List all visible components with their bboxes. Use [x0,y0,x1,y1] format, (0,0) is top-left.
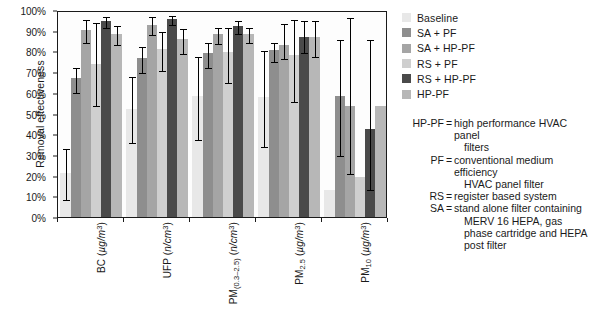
abbreviation-definition-continuation: filters [454,141,589,153]
error-bar [350,18,351,174]
error-bar-cap [347,174,354,175]
error-bar-cap [195,140,202,141]
abbreviation-definition: conventional medium efficiencyHVAC panel… [454,154,589,191]
error-bar-cap [159,71,166,72]
bar [269,50,279,217]
x-axis-tick-mark [189,218,190,222]
error-bar-cap [225,28,232,29]
y-axis-tick-label: 0% [32,213,46,224]
error-bar-cap [139,47,146,48]
error-bar [274,43,275,62]
error-bar-cap [114,26,121,27]
error-bar-cap [271,43,278,44]
legend-item-label: SA + PF [417,27,457,39]
x-axis-tick-mark [255,218,256,222]
y-axis-tick-label: 30% [26,150,46,161]
y-axis-tick-label: 10% [26,192,46,203]
error-bar-cap [180,29,187,30]
bar [299,37,309,217]
abbreviation-note: RS=register based system [396,190,589,202]
legend-item[interactable]: SA + PF [402,25,587,40]
error-bar [117,26,118,45]
legend-item[interactable]: HP-PF [402,86,587,101]
error-bar [96,23,97,106]
error-bar-cap [337,156,344,157]
legend-swatch-icon [402,44,411,53]
error-bar-cap [195,57,202,58]
abbreviation-definition-line1: register based system [454,190,557,202]
legend-item-label: SA + HP-PF [417,42,475,54]
error-bar-cap [73,68,80,69]
error-bar-cap [149,35,156,36]
y-axis-tick-label: 20% [26,171,46,182]
error-bar [264,51,265,146]
error-bar [198,57,199,141]
error-bar-cap [281,24,288,25]
bar [309,37,319,217]
error-bar-cap [246,28,253,29]
legend-item[interactable]: Baseline [402,10,587,25]
error-bar-cap [129,143,136,144]
error-bar-cap [301,53,308,54]
error-bar-cap [235,34,242,35]
abbreviation-equals: = [444,154,454,191]
bar [375,106,385,217]
error-bar-cap [215,28,222,29]
abbreviation-definition-line1: high performance HVAC panel [454,117,567,141]
abbreviation-definition: register based system [454,190,589,202]
y-axis-tick-label: 70% [26,68,46,79]
error-bar-cap [63,149,70,150]
legend-swatch-icon [402,90,411,99]
abbreviation-equals: = [444,117,454,154]
error-bar-cap [129,77,136,78]
bar [324,190,334,217]
error-bar-cap [246,43,253,44]
error-bar-cap [180,54,187,55]
error-bar-cap [159,32,166,33]
error-bar [218,28,219,45]
x-axis-tick-label: BC (µg/m3) [95,222,107,273]
bar [71,78,81,217]
error-bar-cap [312,57,319,58]
y-axis-tick-label: 100% [20,6,46,17]
abbreviation-definition-line1: stand alone filter containing [454,202,582,214]
x-axis-tick-mark [123,218,124,222]
abbreviation-notes: HP-PF=high performance HVAC panelfilters… [396,117,589,251]
error-bar-cap [139,73,146,74]
abbreviation-definition: high performance HVAC panelfilters [454,117,589,154]
legend-item-label: HP-PF [417,88,449,100]
legend-swatch-icon [402,74,411,83]
plot-area [57,11,387,218]
bar [243,34,253,217]
bar [355,177,365,217]
y-axis-tick-label: 90% [26,26,46,37]
error-bar [304,21,305,53]
bar [137,58,147,217]
abbreviation-definition-line1: conventional medium efficiency [454,154,553,178]
abbreviation-key: PF [396,154,444,191]
error-bar [238,21,239,33]
error-bar-cap [367,190,374,191]
error-bar-cap [103,28,110,29]
bar [157,49,167,217]
x-axis-tick-label: PM(0.3–2.5) (n/cm3) [227,222,241,304]
abbreviation-key: RS [396,190,444,202]
legend-item[interactable]: RS + HP-PF [402,71,587,86]
bar [111,34,121,217]
abbreviation-key: HP-PF [396,117,444,154]
legend-item[interactable]: SA + HP-PF [402,41,587,56]
legend-item-label: Baseline [417,12,458,24]
error-bar-cap [93,23,100,24]
legend-item[interactable]: RS + PF [402,56,587,71]
error-bar [152,17,153,35]
abbreviation-definition: stand alone filter containingMERV 16 HEP… [454,202,589,251]
error-bar-cap [235,21,242,22]
error-bar-cap [169,25,176,26]
error-bar-cap [73,93,80,94]
error-bar-cap [103,17,110,18]
error-bar-cap [83,20,90,21]
error-bar [208,43,209,68]
y-axis-tick-label: 50% [26,109,46,120]
error-bar-cap [215,44,222,45]
legend-item-label: RS + PF [417,58,458,70]
